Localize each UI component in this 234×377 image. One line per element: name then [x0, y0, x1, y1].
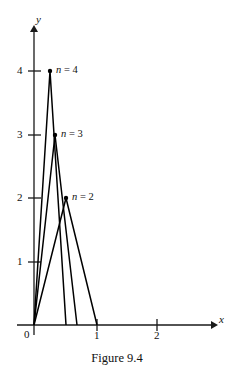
peak-dot-n-2 — [64, 196, 68, 200]
figure-container: 4 3 2 1 0 1 2 x y n = 4 n = 3 n = 2 Figu… — [0, 0, 234, 377]
x-tick-label-2: 2 — [154, 330, 160, 341]
x-axis-label: x — [219, 314, 224, 325]
y-axis-arrow-icon — [30, 25, 38, 32]
y-tick-label-2: 2 — [17, 192, 23, 203]
y-tick-label-1: 1 — [17, 256, 23, 267]
peak-dot-n-4 — [48, 69, 52, 73]
series-label-n-2: n = 2 — [72, 192, 94, 203]
x-axis-arrow-icon — [211, 321, 218, 329]
origin-label: 0 — [24, 329, 30, 340]
y-tick-label-3: 3 — [17, 129, 23, 140]
peak-dot-n-3 — [53, 133, 57, 137]
y-axis-label: y — [36, 14, 41, 25]
series-label-n-3: n = 3 — [61, 129, 83, 140]
series-label-n-4: n = 4 — [56, 65, 78, 76]
y-tick-label-4: 4 — [17, 65, 23, 76]
series-label-n-4-value: 4 — [72, 64, 77, 75]
series-label-n-3-eq: = — [66, 128, 77, 139]
series-label-n-2-eq: = — [77, 191, 88, 202]
figure-caption: Figure 9.4 — [0, 351, 234, 366]
series-label-n-3-value: 3 — [77, 128, 82, 139]
series-label-n-2-value: 2 — [88, 191, 93, 202]
plot-canvas — [0, 0, 234, 377]
series-label-n-4-eq: = — [61, 64, 72, 75]
x-tick-label-1: 1 — [94, 330, 100, 341]
